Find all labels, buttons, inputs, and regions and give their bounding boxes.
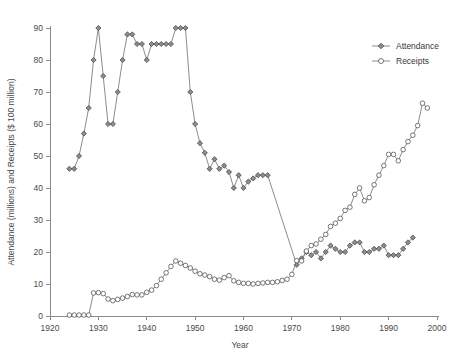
series-attendance [67,25,416,267]
y-tick-label-0: 0 [38,311,43,321]
data-point [207,166,212,171]
data-point [372,183,377,188]
data-point [173,259,178,264]
data-point [154,283,159,288]
data-point [251,176,256,181]
data-point [290,272,295,277]
data-point [111,298,116,303]
y-axis: 0102030405060708090 [34,23,50,321]
data-point [391,152,396,157]
series-line-attendance [69,28,412,265]
data-point [96,290,101,295]
y-tick-label-50: 50 [34,151,44,161]
legend-label-attendance: Attendance [396,41,439,51]
data-point [193,121,198,126]
data-point [396,159,401,164]
data-point [91,57,96,62]
data-point [193,269,198,274]
chart-plot-area: 0102030405060708090 19201930194019501960… [0,0,459,358]
data-point [376,246,381,251]
data-point [86,313,91,318]
data-point [377,173,382,178]
legend-marker-open-circle-icon [379,59,384,64]
data-point [285,277,290,282]
x-axis: 192019301940195019601970198019902000 [41,316,447,333]
data-point [236,173,241,178]
data-point [420,101,425,106]
data-point [144,290,149,295]
data-point [101,73,106,78]
data-point [188,89,193,94]
data-point [314,242,319,247]
data-point [333,221,338,226]
data-point [299,259,304,264]
x-tick-label-1950: 1950 [186,323,205,333]
y-tick-label-40: 40 [34,183,44,193]
data-point [110,121,115,126]
data-point [149,288,154,293]
data-point [357,240,362,245]
data-point [198,271,203,276]
chart-container: 0102030405060708090 19201930194019501960… [0,0,459,358]
x-tick-label-2000: 2000 [428,323,447,333]
data-point [91,291,96,296]
data-point [246,281,251,286]
data-point [270,280,275,285]
data-point [319,237,324,242]
data-point [168,41,173,46]
data-point [227,273,232,278]
y-tick-label-10: 10 [34,279,44,289]
data-point [169,264,174,269]
data-point [212,277,217,282]
data-point [96,25,101,30]
data-point [401,147,406,152]
data-point [381,163,386,168]
data-point [81,131,86,136]
data-point [130,292,135,297]
data-point [251,282,256,287]
data-point [178,261,183,266]
data-point [232,279,237,284]
data-point [67,313,72,318]
data-point [304,249,309,254]
y-tick-label-70: 70 [34,87,44,97]
series-receipts [67,101,430,317]
data-point [241,281,246,286]
data-point [130,32,135,37]
data-point [197,141,202,146]
data-point [411,133,416,138]
data-point [328,224,333,229]
data-point [188,266,193,271]
data-point [139,41,144,46]
y-tick-label-80: 80 [34,55,44,65]
data-point [357,186,362,191]
data-point [338,216,343,221]
data-point [348,205,353,210]
data-point [72,313,77,318]
legend-marker-filled-diamond-icon [378,43,384,49]
x-tick-label-1990: 1990 [379,323,398,333]
y-tick-label-30: 30 [34,215,44,225]
data-point [76,153,81,158]
data-point [261,281,266,286]
data-point [256,281,261,286]
y-tick-label-60: 60 [34,119,44,129]
data-point [386,152,391,157]
data-point [212,157,217,162]
data-point [82,313,87,318]
data-point [115,89,120,94]
data-point [275,279,280,284]
data-point [425,106,430,111]
data-point [352,192,357,197]
data-point [115,297,120,302]
data-point [144,57,149,62]
data-point [202,150,207,155]
y-tick-label-90: 90 [34,23,44,33]
data-point [265,280,270,285]
legend-label-receipts: Receipts [396,56,429,66]
data-point [72,166,77,171]
data-point [367,249,372,254]
x-axis-title: Year [231,340,248,350]
data-point [140,293,145,298]
data-point [86,105,91,110]
